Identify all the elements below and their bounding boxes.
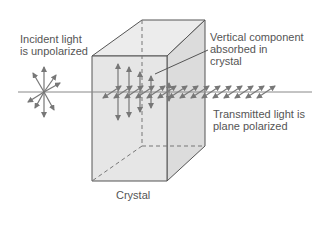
incident-label-line1: Incident light	[20, 33, 88, 45]
transmitted-label: Transmitted light is plane polarized	[213, 108, 305, 132]
vertical-component-label: Vertical component absorbed in crystal	[210, 31, 304, 67]
crystal-box	[92, 20, 205, 181]
vertical-label-line1: Vertical component	[210, 31, 304, 43]
transmitted-label-line2: plane polarized	[213, 120, 305, 132]
incident-label: Incident light is unpolarized	[20, 33, 88, 57]
crystal-label: Crystal	[116, 189, 150, 201]
crystal-label-text: Crystal	[116, 189, 150, 201]
transmitted-label-line1: Transmitted light is	[213, 108, 305, 120]
vertical-label-line2: absorbed in	[210, 43, 304, 55]
incident-label-line2: is unpolarized	[20, 45, 88, 57]
vertical-label-line3: crystal	[210, 55, 304, 67]
